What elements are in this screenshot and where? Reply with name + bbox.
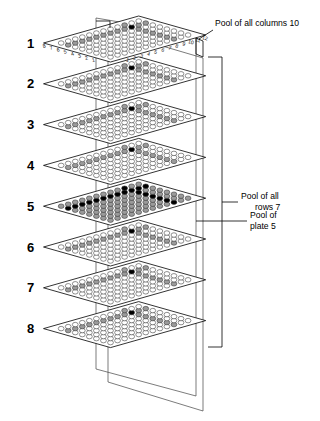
well — [129, 143, 135, 148]
well — [143, 62, 149, 67]
well — [122, 227, 128, 232]
well — [101, 29, 107, 34]
well — [65, 161, 71, 166]
well — [171, 151, 177, 156]
well — [86, 278, 92, 283]
well — [115, 25, 121, 30]
well — [171, 233, 177, 238]
plate — [44, 57, 206, 103]
well — [185, 237, 191, 242]
well — [157, 229, 163, 234]
well — [171, 274, 177, 279]
well — [58, 122, 64, 127]
well — [79, 35, 85, 40]
well — [129, 184, 135, 189]
well — [108, 149, 114, 154]
well — [136, 223, 142, 228]
well — [185, 318, 191, 323]
well — [122, 308, 128, 313]
well — [185, 74, 191, 79]
annotation-pool-columns-line1: Pool of all columns 10 — [215, 18, 299, 28]
well — [136, 100, 142, 105]
pooling-diagram: 12345678 123456789101112 12345678 Pool o… — [0, 0, 320, 421]
well — [178, 31, 184, 36]
well — [143, 184, 149, 189]
well — [86, 155, 92, 160]
well — [171, 29, 177, 34]
well — [86, 114, 92, 119]
column-axis-tick: 7 — [168, 44, 173, 51]
well — [171, 70, 177, 75]
well — [136, 304, 142, 309]
well — [136, 141, 142, 146]
well — [79, 198, 85, 203]
well — [94, 276, 100, 281]
well — [178, 235, 184, 240]
rows-bracket — [208, 57, 238, 347]
well — [86, 237, 92, 242]
well — [150, 64, 156, 69]
well — [115, 66, 121, 71]
well — [108, 108, 114, 113]
annotation-pool-plate: Pool of plate 5 — [250, 210, 277, 231]
well — [65, 39, 71, 44]
well — [129, 62, 135, 67]
well — [115, 270, 121, 275]
well — [129, 266, 135, 271]
well — [122, 104, 128, 109]
well — [178, 194, 184, 199]
well — [150, 104, 156, 109]
well — [143, 266, 149, 271]
well — [178, 316, 184, 321]
well — [72, 322, 78, 327]
well — [101, 110, 107, 115]
well — [164, 27, 170, 32]
well — [72, 37, 78, 42]
well — [108, 312, 114, 317]
well — [122, 145, 128, 150]
well — [185, 114, 191, 119]
well — [65, 284, 71, 289]
well — [108, 27, 114, 32]
well — [65, 120, 71, 125]
well — [136, 264, 142, 269]
well — [58, 286, 64, 291]
plate — [44, 261, 206, 307]
well — [157, 310, 163, 315]
plate-index-labels: 12345678 — [27, 36, 35, 337]
well — [164, 149, 170, 154]
well — [129, 225, 135, 230]
well — [94, 153, 100, 158]
well — [101, 233, 107, 238]
column-axis-tick: 10 — [187, 38, 194, 45]
well — [157, 66, 163, 71]
annotation-pool-rows: Pool of all rows 7 — [241, 191, 281, 212]
plate-index-label: 6 — [27, 240, 34, 255]
well — [164, 231, 170, 236]
well — [157, 270, 163, 275]
well — [115, 310, 121, 315]
well — [108, 68, 114, 73]
annotation-pool-rows-line1: Pool of all — [241, 191, 279, 201]
plate — [44, 138, 206, 184]
well — [79, 157, 85, 162]
well — [79, 76, 85, 81]
well — [136, 60, 142, 65]
well — [143, 306, 149, 311]
plate-stack — [44, 16, 206, 348]
plate-index-label: 7 — [27, 280, 34, 295]
well — [101, 151, 107, 156]
well — [185, 278, 191, 283]
well — [178, 276, 184, 281]
well — [150, 23, 156, 28]
well — [86, 318, 92, 323]
well — [115, 188, 121, 193]
well — [72, 241, 78, 246]
well — [171, 192, 177, 197]
well — [150, 145, 156, 150]
well — [164, 68, 170, 73]
well — [171, 314, 177, 319]
well — [164, 312, 170, 317]
plate — [44, 98, 206, 144]
well — [122, 186, 128, 191]
